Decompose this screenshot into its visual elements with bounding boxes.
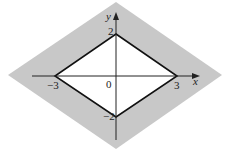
x-neg-vertex-label: −3 [47,79,59,91]
x-axis-label: x [192,75,198,87]
y-axis-label: y [105,10,111,22]
region-diagram: x y 0 3 −3 2 −2 [0,0,226,152]
y-pos-vertex-label: 2 [108,25,114,37]
origin-label: 0 [106,78,112,90]
y-neg-vertex-label: −2 [103,110,115,122]
x-pos-vertex-label: 3 [174,79,180,91]
